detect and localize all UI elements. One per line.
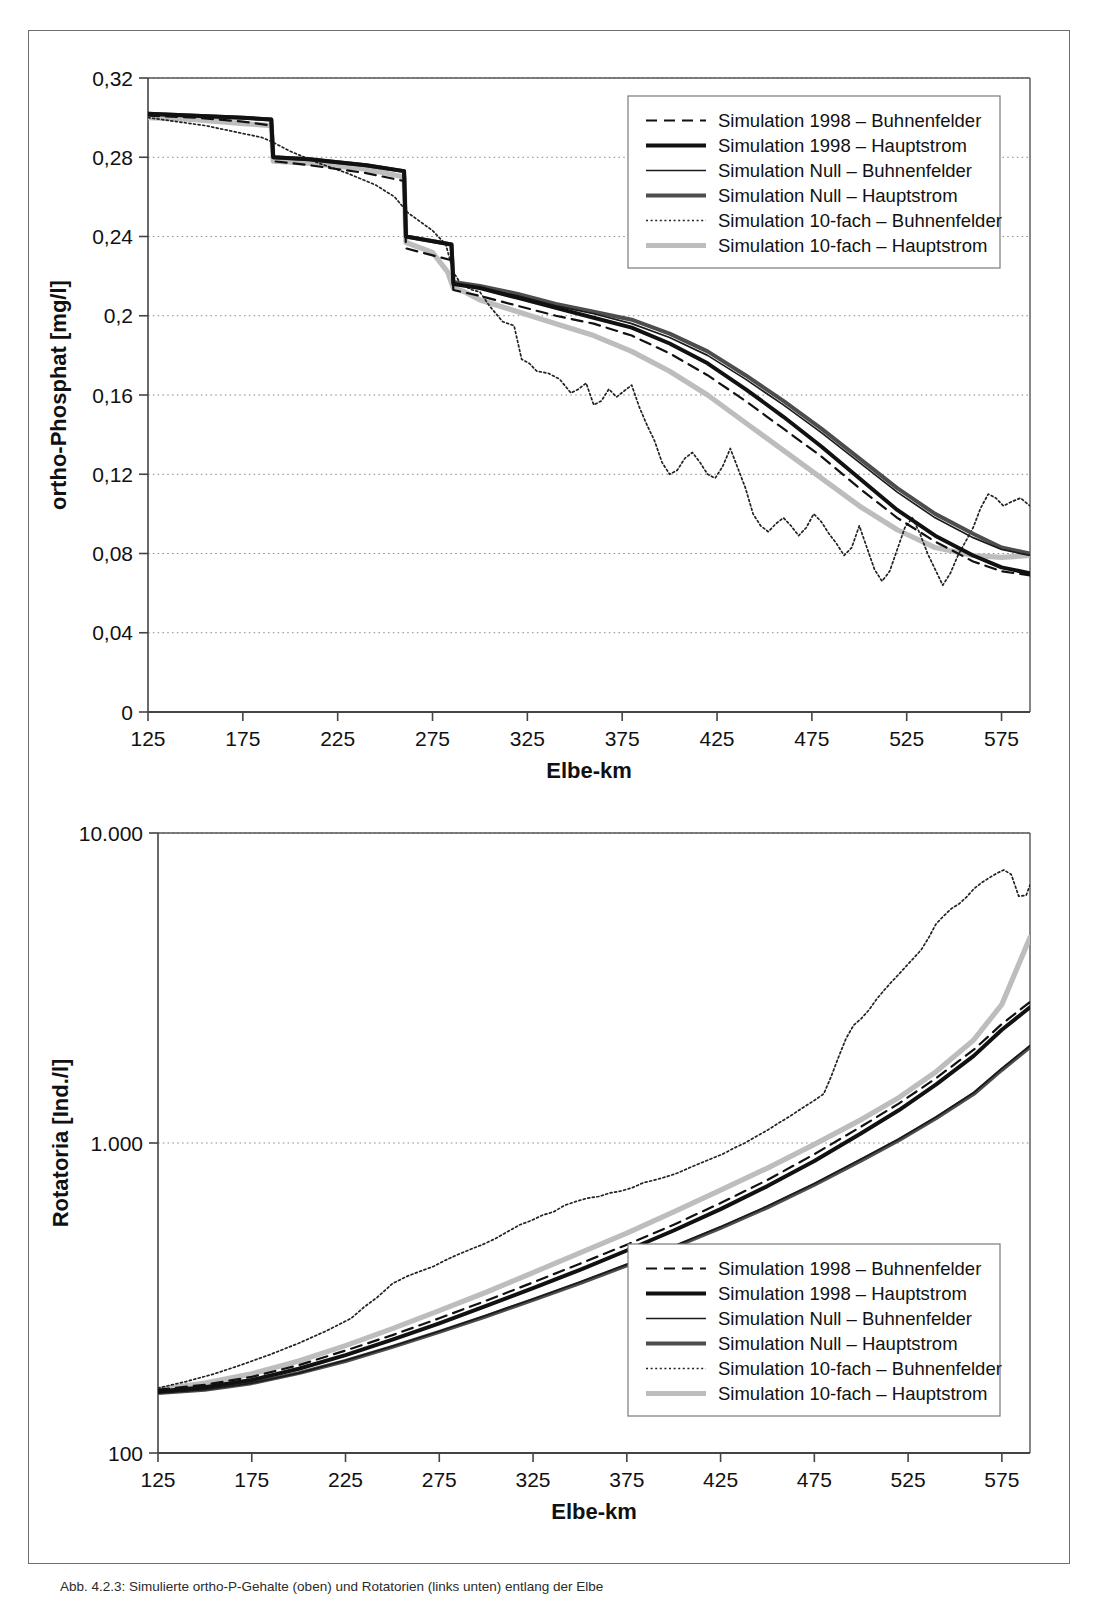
ortho-phosphat-plot: 00,040,080,120,160,20,240,280,3212517522… [28, 30, 1070, 800]
x-tick-label: 225 [328, 1468, 363, 1491]
x-tick-label: 125 [140, 1468, 175, 1491]
y-tick-label: 0,04 [92, 621, 133, 644]
legend-label: Simulation 10-fach – Buhnenfelder [718, 210, 1002, 231]
y-tick-label: 0,08 [92, 542, 133, 565]
x-tick-label: 525 [889, 727, 924, 750]
x-tick-label: 225 [320, 727, 355, 750]
legend: Simulation 1998 – BuhnenfelderSimulation… [628, 1244, 1002, 1416]
x-tick-label: 275 [415, 727, 450, 750]
x-tick-label: 175 [234, 1468, 269, 1491]
legend-label: Simulation 1998 – Buhnenfelder [718, 110, 981, 131]
y-tick-label: 100 [108, 1442, 143, 1465]
x-axis-title: Elbe-km [551, 1499, 637, 1524]
x-tick-label: 125 [130, 727, 165, 750]
x-axis-title: Elbe-km [546, 758, 632, 783]
x-tick-label: 575 [984, 727, 1019, 750]
x-tick-label: 475 [794, 727, 829, 750]
legend-label: Simulation 1998 – Hauptstrom [718, 135, 967, 156]
y-tick-label: 10.000 [79, 822, 143, 845]
y-tick-label: 0,12 [92, 463, 133, 486]
figure-caption: Abb. 4.2.3: Simulierte ortho-P-Gehalte (… [60, 1578, 1080, 1608]
rotatoria-plot: 1001.00010.00012517522527532537542547552… [28, 800, 1070, 1564]
y-tick-label: 0,16 [92, 384, 133, 407]
legend-label: Simulation 1998 – Hauptstrom [718, 1283, 967, 1304]
y-tick-label: 0,32 [92, 67, 133, 90]
chart-ortho-phosphat: 00,040,080,120,160,20,240,280,3212517522… [28, 30, 1070, 800]
legend: Simulation 1998 – BuhnenfelderSimulation… [628, 96, 1002, 268]
figure-page: 00,040,080,120,160,20,240,280,3212517522… [0, 0, 1108, 1610]
x-tick-label: 425 [700, 727, 735, 750]
legend-label: Simulation 1998 – Buhnenfelder [718, 1258, 981, 1279]
legend-label: Simulation Null – Buhnenfelder [718, 1308, 972, 1329]
legend-label: Simulation 10-fach – Hauptstrom [718, 1383, 987, 1404]
x-tick-label: 575 [984, 1468, 1019, 1491]
chart-rotatoria: 1001.00010.00012517522527532537542547552… [28, 800, 1070, 1564]
legend-label: Simulation Null – Hauptstrom [718, 1333, 958, 1354]
legend-label: Simulation Null – Hauptstrom [718, 185, 958, 206]
y-tick-label: 0 [121, 701, 133, 724]
legend-label: Simulation Null – Buhnenfelder [718, 160, 972, 181]
y-axis-title: Rotatoria [Ind./l] [48, 1059, 73, 1228]
x-tick-label: 375 [605, 727, 640, 750]
x-tick-label: 425 [703, 1468, 738, 1491]
x-tick-label: 375 [609, 1468, 644, 1491]
x-tick-label: 175 [225, 727, 260, 750]
x-tick-label: 325 [516, 1468, 551, 1491]
x-tick-label: 525 [891, 1468, 926, 1491]
y-tick-label: 1.000 [90, 1132, 143, 1155]
legend-label: Simulation 10-fach – Buhnenfelder [718, 1358, 1002, 1379]
y-axis-title: ortho-Phosphat [mg/l] [46, 280, 71, 510]
y-tick-label: 0,28 [92, 146, 133, 169]
x-tick-label: 475 [797, 1468, 832, 1491]
legend-label: Simulation 10-fach – Hauptstrom [718, 235, 987, 256]
y-tick-label: 0,24 [92, 225, 133, 248]
x-tick-label: 325 [510, 727, 545, 750]
x-tick-label: 275 [422, 1468, 457, 1491]
y-tick-label: 0,2 [104, 304, 133, 327]
